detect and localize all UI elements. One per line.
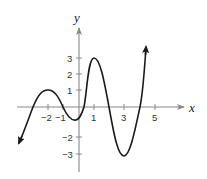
x-tick-label: −2 — [41, 112, 52, 123]
y-tick-label: 1 — [67, 85, 72, 96]
x-axis-label: x — [188, 100, 195, 115]
x-tick-label: 1 — [91, 112, 96, 123]
y-tick-label: −3 — [62, 149, 73, 160]
y-tick-label: 3 — [67, 53, 72, 64]
y-tick-label: 2 — [67, 69, 72, 80]
y-axis-label: y — [72, 10, 80, 25]
x-tick-label: 5 — [152, 112, 157, 123]
curve-arrow-end — [146, 47, 147, 55]
x-tick-label: −1 — [55, 112, 66, 123]
function-graph: x y −2 −1 1 3 5 3 2 1 −2 −3 — [0, 0, 207, 179]
function-curve — [19, 47, 146, 156]
y-tick-label: −2 — [62, 132, 73, 143]
x-tick-label: 3 — [121, 112, 126, 123]
curve-arrow-start — [19, 136, 22, 143]
